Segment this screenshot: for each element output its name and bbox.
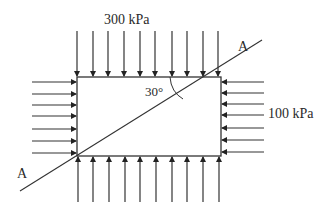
plane-label-bottom: A xyxy=(17,166,28,181)
vertical-stress-label: 300 kPa xyxy=(104,12,150,27)
top-compression-arrows xyxy=(77,31,218,76)
horizontal-stress-label: 100 kPa xyxy=(268,106,314,121)
stress-element-diagram: 300 kPa 100 kPa 30° A A xyxy=(0,0,334,212)
right-compression-arrows xyxy=(222,82,264,152)
angle-label: 30° xyxy=(145,84,163,99)
plane-label-top: A xyxy=(238,39,249,54)
bottom-compression-arrows xyxy=(78,157,219,202)
left-compression-arrows xyxy=(32,82,76,153)
